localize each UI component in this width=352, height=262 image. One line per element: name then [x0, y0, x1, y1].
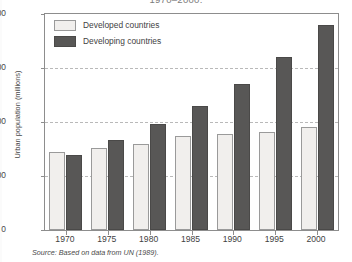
bar-developing-1985 — [192, 106, 208, 230]
chart-title: 1970–2000. — [0, 0, 352, 5]
y-axis-tick-mark — [41, 122, 45, 123]
page-edge-artifact — [0, 0, 2, 262]
y-axis-tick-mark — [41, 230, 45, 231]
bar-developed-1975 — [91, 148, 107, 230]
bar-developed-1995 — [259, 132, 275, 230]
bar-developed-1990 — [217, 134, 233, 230]
bar-group-1990 — [217, 14, 250, 230]
bar-developed-1970 — [49, 152, 65, 230]
y-axis-tick-label: 500 — [0, 170, 6, 180]
bar-developing-1970 — [66, 155, 82, 230]
y-axis-tick-label: 1000 — [0, 116, 6, 126]
legend-item-developed: Developed countries — [54, 18, 178, 32]
y-axis-label: Urban population (millions) — [13, 40, 22, 190]
chart-legend: Developed countries Developing countries — [54, 18, 178, 50]
legend-swatch-developed-icon — [54, 20, 76, 31]
bar-developing-1980 — [150, 124, 166, 230]
y-axis-tick-mark — [41, 176, 45, 177]
y-axis-tick-label: 1500 — [0, 62, 6, 72]
source-note: Source: Based on data from UN (1989). — [32, 248, 159, 257]
bar-developing-2000 — [318, 25, 334, 230]
x-axis-tick-label: 2000 — [291, 234, 341, 244]
bar-developing-1990 — [234, 84, 250, 230]
bar-developed-2000 — [301, 127, 317, 230]
legend-item-developing: Developing countries — [54, 34, 178, 48]
bar-developed-1980 — [133, 144, 149, 230]
y-axis-tick-label: 2000 — [0, 8, 6, 18]
legend-label-developing: Developing countries — [83, 36, 161, 46]
bar-group-1995 — [259, 14, 292, 230]
y-axis-tick-mark — [41, 68, 45, 69]
bar-developing-1995 — [276, 57, 292, 230]
bar-chart-figure: 1970–2000. Urban population (millions) 0… — [0, 0, 352, 262]
legend-swatch-developing-icon — [54, 36, 76, 47]
bar-developing-1975 — [108, 140, 124, 230]
bar-developed-1985 — [175, 136, 191, 230]
y-axis-tick-mark — [41, 14, 45, 15]
bar-group-2000 — [301, 14, 334, 230]
bar-group-1985 — [175, 14, 208, 230]
legend-label-developed: Developed countries — [83, 20, 159, 30]
y-axis-tick-label: 0 — [0, 224, 6, 234]
